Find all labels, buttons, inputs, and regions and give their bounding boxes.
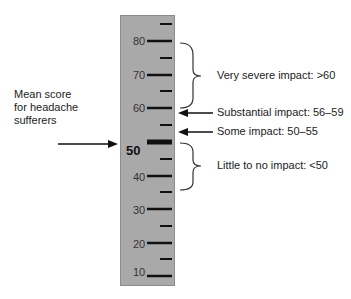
- scale-label-10: 10: [133, 266, 145, 278]
- scale-label-20: 20: [133, 238, 145, 250]
- label-some: Some impact: 50–55: [217, 125, 318, 137]
- scale-label-60: 60: [133, 102, 145, 114]
- mean-score-annotation: Mean score for headache sufferers: [14, 88, 78, 127]
- label-little: Little to no impact: <50: [217, 159, 328, 171]
- annotation-line-2: for headache: [14, 101, 78, 114]
- scale-label-50: 50: [126, 143, 140, 158]
- label-very-severe: Very severe impact: >60: [217, 69, 335, 81]
- mean-score-arrow: [58, 140, 118, 148]
- label-substantial: Substantial impact: 56–59: [217, 106, 344, 118]
- scale-label-70: 70: [133, 69, 145, 81]
- diagram-graphics: [0, 0, 351, 299]
- scale-label-80: 80: [133, 35, 145, 47]
- annotation-line-3: sufferers: [14, 114, 78, 127]
- annotation-line-1: Mean score: [14, 88, 78, 101]
- hit6-scale-diagram: 80 70 60 50 40 30 20 10 Mean score for h…: [0, 0, 351, 299]
- arrow-some: [178, 128, 213, 136]
- scale-label-40: 40: [133, 171, 145, 183]
- arrow-substantial: [178, 109, 213, 117]
- brace-little: [180, 143, 201, 190]
- brace-very-severe: [180, 43, 201, 108]
- scale-label-30: 30: [133, 204, 145, 216]
